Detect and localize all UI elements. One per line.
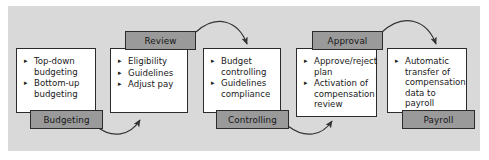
list-item-label: Budget controlling: [221, 56, 266, 77]
list-item-label: Guidelines compliance: [221, 78, 270, 99]
stage-card-approval: ▸Approve/reject plan ▸Activation of comp…: [296, 48, 377, 117]
stage-tag-approval: Approval: [312, 31, 383, 50]
list-item: ▸Budget controlling: [211, 56, 275, 77]
bullet-icon: ▸: [24, 78, 28, 89]
list-item-label: Bottom-up budgeting: [34, 78, 80, 99]
list-item-label: Top-down budgeting: [34, 56, 78, 77]
stage-tag-label: Payroll: [424, 115, 454, 125]
stage-card-budgeting: ▸Top-down budgeting ▸Bottom-up budgeting: [16, 48, 96, 113]
bullet-icon: ▸: [304, 56, 308, 67]
stage-item-list: ▸Budget controlling ▸Guidelines complian…: [204, 49, 280, 104]
bullet-icon: ▸: [211, 56, 215, 67]
list-item: ▸Top-down budgeting: [24, 56, 90, 77]
bullet-icon: ▸: [395, 56, 399, 67]
bullet-icon: ▸: [304, 78, 308, 89]
list-item: ▸Activation of compensation review: [304, 78, 371, 110]
list-item-label: Activation of compensation review: [314, 78, 375, 109]
list-item-label: Guidelines: [128, 68, 173, 78]
list-item: ▸Guidelines: [118, 68, 182, 79]
list-item: ▸Adjust pay: [118, 79, 182, 90]
stage-tag-controlling: Controlling: [216, 110, 289, 129]
list-item: ▸Approve/reject plan: [304, 56, 371, 77]
stage-tag-label: Controlling: [228, 115, 277, 125]
list-item-label: Adjust pay: [128, 79, 173, 89]
bullet-icon: ▸: [24, 56, 28, 67]
stage-tag-label: Approval: [328, 36, 368, 46]
stage-tag-label: Review: [145, 36, 177, 46]
stage-tag-label: Budgeting: [43, 115, 89, 125]
stage-item-list: ▸Top-down budgeting ▸Bottom-up budgeting: [17, 49, 95, 104]
list-item-label: Eligibility: [128, 56, 167, 66]
diagram-canvas: ▸Top-down budgeting ▸Bottom-up budgeting…: [0, 0, 489, 160]
list-item: ▸Guidelines compliance: [211, 78, 275, 99]
stage-item-list: ▸Approve/reject plan ▸Activation of comp…: [297, 49, 376, 115]
list-item-label: Automatic transfer of compensation data …: [405, 56, 466, 108]
bullet-icon: ▸: [118, 56, 122, 67]
stage-tag-budgeting: Budgeting: [30, 110, 103, 129]
stage-tag-payroll: Payroll: [402, 110, 475, 129]
stage-card-payroll: ▸Automatic transfer of compensation data…: [387, 48, 467, 113]
bullet-icon: ▸: [118, 68, 122, 79]
stage-item-list: ▸Automatic transfer of compensation data…: [388, 49, 466, 114]
stage-card-review: ▸Eligibility ▸Guidelines ▸Adjust pay: [110, 48, 188, 113]
list-item: ▸Bottom-up budgeting: [24, 78, 90, 99]
list-item: ▸Eligibility: [118, 56, 182, 67]
stage-tag-review: Review: [125, 31, 196, 50]
list-item: ▸Automatic transfer of compensation data…: [395, 56, 461, 109]
list-item-label: Approve/reject plan: [314, 56, 377, 77]
bullet-icon: ▸: [118, 79, 122, 90]
stage-item-list: ▸Eligibility ▸Guidelines ▸Adjust pay: [111, 49, 187, 95]
bullet-icon: ▸: [211, 78, 215, 89]
stage-card-controlling: ▸Budget controlling ▸Guidelines complian…: [203, 48, 281, 113]
